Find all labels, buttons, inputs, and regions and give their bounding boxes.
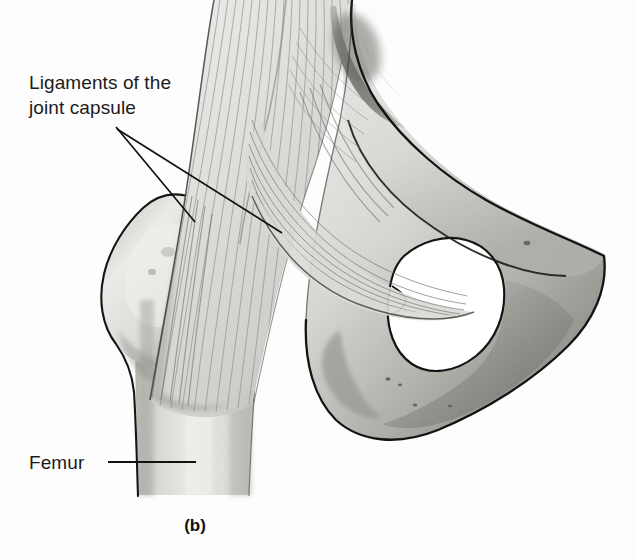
anatomy-figure: Ligaments of the joint capsule Femur (b): [0, 0, 636, 560]
pelvis-bone: [306, 0, 605, 440]
figure-caption: (b): [0, 516, 390, 536]
label-ligaments-of-joint-capsule: Ligaments of the joint capsule: [29, 70, 229, 120]
label-femur: Femur: [29, 450, 84, 475]
